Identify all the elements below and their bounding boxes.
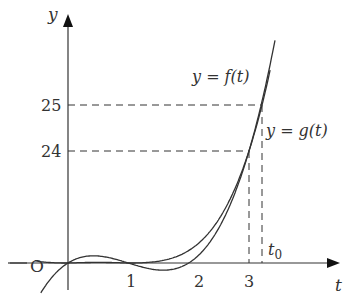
- y-tick-24: 24: [41, 142, 61, 161]
- t0-label: t0: [268, 240, 282, 262]
- dashed-guides: [68, 105, 262, 263]
- origin-label: O: [30, 256, 44, 276]
- x-tick-3: 3: [244, 272, 254, 291]
- curve-f: [35, 70, 270, 263]
- f-curve-label: y = f(t): [191, 67, 249, 86]
- x-tick-2: 2: [194, 272, 204, 291]
- g-curve-label: y = g(t): [265, 121, 328, 140]
- y-axis-label: y: [47, 4, 58, 24]
- y-axis-arrow-icon: [63, 14, 73, 27]
- y-tick-25: 25: [41, 96, 61, 115]
- x-tick-1: 1: [126, 272, 136, 291]
- t-axis-label: t: [335, 275, 342, 295]
- t-axis-arrow-icon: [327, 258, 340, 268]
- function-graph: y t O 1 2 3 t0 25 24 y = f(t) y = g(t): [0, 0, 354, 307]
